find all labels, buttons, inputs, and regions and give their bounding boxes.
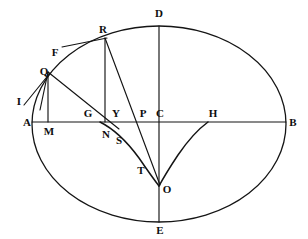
point-label-F: F <box>52 47 59 58</box>
point-label-S: S <box>116 135 122 146</box>
point-label-E: E <box>156 225 163 236</box>
normal-Q-lower <box>40 72 48 110</box>
point-label-Y: Y <box>112 108 120 119</box>
point-label-P: P <box>140 108 147 119</box>
point-label-O: O <box>163 184 172 195</box>
geometry-figure: ABCDEFGHIMNOPQRSTY <box>0 0 308 239</box>
point-label-R: R <box>99 24 107 35</box>
normal-IQ <box>24 73 50 105</box>
evolute-right-branch <box>159 122 208 186</box>
point-label-A: A <box>23 117 31 128</box>
point-label-B: B <box>289 117 296 128</box>
point-label-G: G <box>84 108 93 119</box>
point-label-Q: Q <box>40 66 49 77</box>
point-label-C: C <box>156 108 164 119</box>
point-label-D: D <box>155 8 163 19</box>
point-label-H: H <box>209 108 218 119</box>
diagram-canvas <box>0 0 308 239</box>
construction-lines <box>24 26 286 222</box>
chord-QN <box>48 72 119 129</box>
point-label-N: N <box>102 129 110 140</box>
point-label-T: T <box>137 165 144 176</box>
evolute-curves <box>100 122 208 186</box>
point-label-I: I <box>17 96 21 107</box>
tangent-FR <box>62 38 107 47</box>
point-label-M: M <box>44 126 54 137</box>
